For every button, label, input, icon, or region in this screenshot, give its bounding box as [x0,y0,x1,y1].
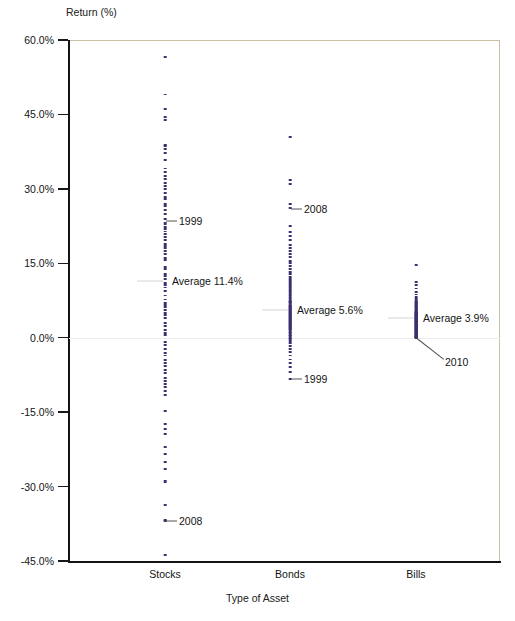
data-point [164,317,167,319]
data-point [289,268,292,270]
data-point [164,94,167,96]
data-point [164,295,167,297]
data-point [164,461,167,463]
data-point [164,299,167,301]
annotation-leader [166,220,177,221]
data-point [164,178,167,180]
data-point [415,281,418,283]
data-point [164,322,167,324]
average-tick-bills [388,318,414,319]
data-point [164,423,167,425]
data-point [164,290,167,292]
data-point [164,434,167,436]
return-by-asset-type-scatter-chart: Return (%) 60.0%45.0%30.0%15.0%0.0%-15.0… [0,0,515,621]
data-point [289,362,292,364]
annotation-label-2008: 2008 [304,203,327,215]
y-axis-tick-label: 15.0% [0,257,54,269]
annotation-label-1999: 1999 [304,373,327,385]
data-point [289,231,292,233]
data-point [164,233,167,235]
y-axis-tick [58,188,68,189]
x-axis-label-stocks: Stocks [149,568,181,580]
data-point [164,213,167,215]
data-point [164,504,167,506]
data-point [164,554,167,556]
data-point [164,168,167,170]
data-point [164,372,167,374]
y-axis-tick-label: 60.0% [0,34,54,46]
data-point [164,240,167,242]
data-point [289,183,292,185]
y-axis-title: Return (%) [66,6,117,18]
data-point [164,344,167,346]
data-point [164,334,167,336]
data-point [289,136,292,138]
average-label-bonds: Average 5.6% [297,304,363,316]
y-axis-tick-label: 30.0% [0,183,54,195]
x-axis-spine [68,561,501,563]
data-point [289,250,292,252]
y-axis-tick [58,411,68,412]
data-point [164,359,167,361]
data-point [164,362,167,364]
data-point [164,383,167,385]
y-axis-tick-label: -30.0% [0,481,54,493]
data-point [289,240,292,242]
data-point [164,380,167,382]
data-point [164,152,167,154]
data-point [289,355,292,357]
data-point [289,359,292,361]
data-point [289,262,292,264]
zero-gridline [69,338,500,339]
data-point [289,244,292,246]
data-point [289,247,292,249]
data-point [164,268,167,270]
data-point [164,370,167,372]
data-point [164,175,167,177]
data-point [164,341,167,343]
y-axis-spine [68,40,70,563]
average-label-bills: Average 3.9% [423,312,489,324]
y-axis-tick-label: -15.0% [0,406,54,418]
data-point [289,371,292,373]
y-axis-tick [58,486,68,487]
data-point [164,278,167,280]
data-point [164,119,167,121]
y-axis-tick-label: -45.0% [0,555,54,567]
data-point [164,192,167,194]
average-tick-bonds [262,309,288,310]
data-point [164,209,167,211]
data-point [164,314,167,316]
average-label-stocks: Average 11.4% [172,275,243,287]
data-point [164,377,167,379]
data-point [289,351,292,353]
data-point [164,253,167,255]
data-point [164,410,167,412]
annotation-leader [166,521,177,522]
y-axis-tick [58,39,68,40]
data-point [289,253,292,255]
data-point [164,247,167,249]
y-axis-tick-label: 0.0% [0,332,54,344]
data-point [415,288,418,290]
data-point [164,482,167,484]
data-point [289,345,292,347]
annotation-label-1999: 1999 [179,215,202,227]
data-point [164,250,167,252]
data-point [164,159,167,161]
data-point [164,171,167,173]
data-point [164,287,167,289]
data-point [164,446,167,448]
x-axis-title: Type of Asset [0,592,515,604]
data-point [289,225,292,227]
annotation-label-2008: 2008 [179,515,202,527]
data-point [164,148,167,150]
data-point [164,366,167,368]
data-point [164,309,167,311]
data-point [164,325,167,327]
y-axis-tick [58,263,68,264]
x-axis-label-bills: Bills [406,568,425,580]
data-point [415,284,418,286]
data-point [164,390,167,392]
data-point [164,355,167,357]
